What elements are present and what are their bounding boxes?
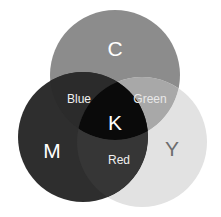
label-key: K [108,111,122,134]
label-cyan: C [107,37,122,60]
label-magenta: M [43,139,61,162]
label-red: Red [108,153,130,167]
label-blue: Blue [67,92,91,106]
label-yellow: Y [165,137,179,160]
label-green: Green [133,92,166,106]
cmyk-venn-diagram: C M Y Blue Green Red K [0,0,221,217]
venn-diagram-svg: C M Y Blue Green Red K [0,0,221,217]
